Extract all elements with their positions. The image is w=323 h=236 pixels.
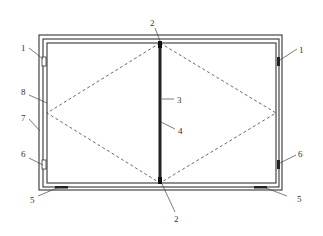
- divider-top-block: [158, 41, 162, 48]
- label-3: 3: [177, 95, 182, 105]
- label-8: 8: [21, 87, 26, 97]
- leader-5-left: [38, 188, 57, 196]
- label-1-left: 1: [21, 43, 26, 53]
- label-7: 7: [21, 113, 26, 123]
- leader-1-left: [29, 48, 43, 59]
- central-divider: [159, 47, 162, 179]
- divider-bottom-block: [158, 177, 162, 184]
- diagram-canvas: 1 1 2 2 3 4 5 5 6 6 7 8: [0, 0, 323, 236]
- label-6-left: 6: [21, 149, 26, 159]
- right-upper-clip: [277, 57, 280, 66]
- label-2-bottom: 2: [174, 214, 179, 224]
- right-dashed-brace: [160, 43, 276, 183]
- leader-2-bottom: [162, 184, 175, 212]
- leader-4: [161, 122, 175, 129]
- label-5-left: 5: [30, 195, 35, 205]
- right-bottom-pad: [254, 186, 267, 189]
- left-dashed-brace: [47, 43, 160, 183]
- label-4: 4: [178, 126, 183, 136]
- right-lower-clip: [277, 160, 280, 169]
- leader-5-right: [266, 188, 287, 196]
- leader-7: [29, 119, 40, 131]
- leader-6-left: [29, 158, 43, 165]
- label-2-top: 2: [150, 18, 155, 28]
- label-1-right: 1: [299, 45, 304, 55]
- label-6-right: 6: [298, 149, 303, 159]
- leader-8: [29, 95, 47, 103]
- label-5-right: 5: [297, 194, 302, 204]
